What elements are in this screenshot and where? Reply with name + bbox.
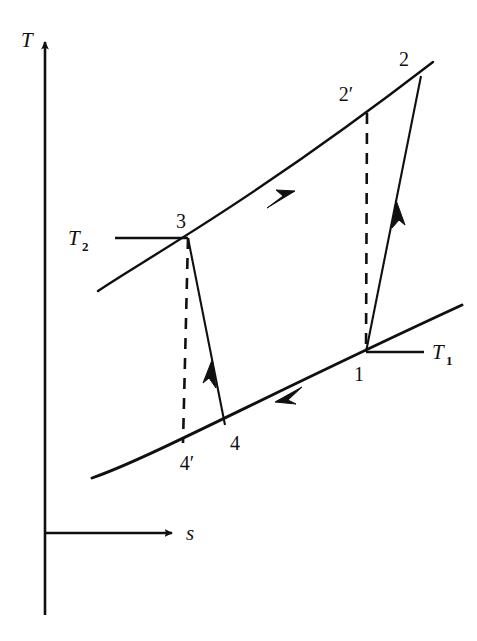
t2-subscript: 2 (82, 239, 89, 254)
ts-diagram-canvas: T s T 2 (0, 0, 477, 641)
state-label-2-prime: 2′ (339, 83, 353, 105)
compression-line-1-2prime-dashed (366, 113, 367, 352)
state-label-3: 3 (176, 210, 186, 232)
low-pressure-flow-arrow (275, 387, 302, 404)
expansion-line-3-4 (188, 238, 225, 425)
state-label-4-prime: 4′ (180, 452, 194, 474)
high-pressure-isobar (98, 62, 433, 291)
low-pressure-isobar-curve (92, 305, 462, 478)
expansion-direction-arrow (203, 360, 216, 388)
compression-direction-arrow (392, 200, 405, 228)
t1-label: T (432, 340, 445, 364)
t2-label: T (68, 226, 81, 250)
t1-label-group: T 1 (432, 340, 453, 368)
temperature-axis-label: T (21, 28, 34, 52)
state-label-1: 1 (354, 363, 364, 385)
high-pressure-isobar-curve (98, 62, 433, 291)
axes-group: T s (21, 28, 194, 615)
t1-subscript: 1 (446, 353, 453, 368)
expansion-process-actual (188, 238, 225, 425)
state-label-4: 4 (230, 432, 240, 454)
low-pressure-isobar (92, 305, 462, 478)
compression-process-actual (366, 76, 421, 352)
ts-diagram-figure: T s T 2 (0, 0, 477, 641)
t2-label-group: T 2 (68, 226, 89, 254)
state-label-2: 2 (399, 48, 409, 70)
entropy-axis-label: s (186, 521, 194, 545)
high-pressure-flow-arrow (267, 190, 295, 208)
expansion-line-3-4prime-dashed (183, 238, 188, 443)
